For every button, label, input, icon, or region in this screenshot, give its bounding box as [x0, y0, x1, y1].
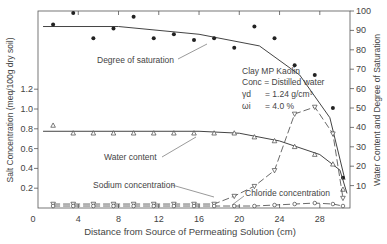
y-right-axis-title: Water Content and Degree of Saturation [372, 34, 382, 186]
y-left-tick-label: 1.0 [20, 104, 33, 114]
annotation-symbol-3: γd [242, 89, 251, 99]
series-water-content [43, 123, 347, 193]
y-right-tick-label: 80 [356, 45, 366, 55]
y-right-tick-label: 70 [356, 64, 366, 74]
y-left-tick-label: 0.2 [20, 183, 33, 193]
x-tick-label: 0 [30, 214, 35, 224]
annotation-line-3: = 1.24 g/cm³ [265, 89, 313, 99]
y-right-tick-label: 40 [356, 122, 366, 132]
chart: 04812162024280.20.40.60.81.01.2102030405… [0, 0, 387, 244]
y-right-tick-label: 30 [356, 142, 366, 152]
x-tick-label: 28 [315, 214, 325, 224]
label-chloride: Chloride concentration [245, 188, 330, 198]
x-tick-label: 8 [116, 214, 121, 224]
x-tick-label: 12 [154, 214, 164, 224]
y-left-tick-label: 1.2 [20, 84, 33, 94]
annotation-line-1: Clay MP Kaolin [242, 66, 300, 76]
leader-sodium [172, 185, 214, 197]
y-right-tick-label: 100 [356, 6, 371, 16]
y-left-tick-label: 0.6 [20, 144, 33, 154]
label-sodium: Sodium concentration [93, 180, 175, 190]
x-tick-label: 20 [234, 214, 244, 224]
label-water-content: Water content [104, 152, 157, 162]
annotation-symbol-4: ωi [242, 101, 251, 111]
label-degree-of-saturation: Degree of saturation [97, 55, 174, 65]
annotation-box: Clay MP Kaolin Conc = Distilled water γd… [242, 66, 325, 111]
y-left-axis-title: Salt Concentration (meq/100g dry soil) [5, 37, 15, 182]
annotation-line-4: = 4.0 % [265, 101, 295, 111]
annotation-line-2: Conc = Distilled water [242, 77, 325, 87]
y-right-tick-label: 50 [356, 103, 366, 113]
series-layer [43, 11, 347, 208]
x-tick-label: 16 [194, 214, 204, 224]
y-right-tick-label: 20 [356, 161, 366, 171]
y-right-tick-label: 10 [356, 181, 366, 191]
leader-degree [178, 44, 207, 59]
y-left-tick-label: 0.8 [20, 124, 33, 134]
x-tick-label: 4 [76, 214, 81, 224]
leader-water [162, 137, 196, 157]
y-right-tick-label: 90 [356, 25, 366, 35]
x-tick-label: 24 [275, 214, 285, 224]
y-left-tick-label: 0.4 [20, 163, 33, 173]
y-right-tick-label: 60 [356, 84, 366, 94]
x-axis-title: Distance from Source of Permeating Solut… [84, 226, 296, 237]
